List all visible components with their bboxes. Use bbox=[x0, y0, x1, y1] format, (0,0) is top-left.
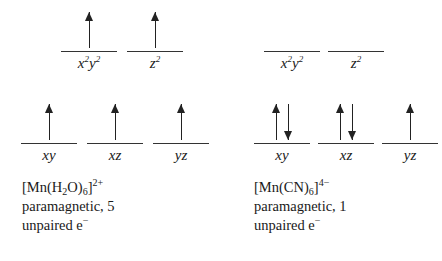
orbital-level-line bbox=[87, 143, 143, 144]
formula-charge: 4− bbox=[319, 177, 330, 188]
electron-slot-empty bbox=[288, 12, 297, 48]
orbital-t2g-xy: xy bbox=[18, 100, 80, 164]
electron-charge-sign: − bbox=[83, 215, 89, 226]
magnetism-text: paramagnetic, 1 bbox=[254, 197, 347, 216]
orbital-level-line bbox=[127, 51, 183, 52]
complex-diagram-mn-cn: x2y2 z2 xy xz bbox=[240, 0, 440, 261]
electron-arrow-up bbox=[177, 104, 186, 140]
electron-arrow-down bbox=[348, 104, 357, 140]
orbital-label-yz: yz bbox=[150, 147, 212, 164]
formula-charge: 2+ bbox=[93, 177, 104, 188]
magnetism-text: paramagnetic, 5 bbox=[22, 197, 115, 216]
orbital-label-xy: xy bbox=[252, 147, 312, 164]
chemical-formula: [Mn(H2O)6]2+ bbox=[22, 178, 115, 197]
orbital-level-line bbox=[264, 51, 320, 52]
complex-caption: [Mn(H2O)6]2+ paramagnetic, 5 unpaired e− bbox=[22, 178, 115, 235]
electron-charge-sign: − bbox=[315, 215, 321, 226]
formula-ligand-count: 6 bbox=[309, 186, 314, 197]
orbital-label-x2y2: x2y2 bbox=[262, 55, 322, 72]
unpaired-label: unpaired e bbox=[22, 217, 83, 233]
label-exponent: 2 bbox=[357, 54, 362, 64]
label-exponent: 2 bbox=[156, 54, 161, 64]
orbital-t2g-yz: yz bbox=[150, 100, 212, 164]
electron-slot-eg-x2y2 bbox=[58, 8, 120, 48]
eg-level-row: x2y2 z2 bbox=[58, 8, 258, 72]
electron-slot-t2g-xz bbox=[316, 100, 376, 140]
orbital-level-line bbox=[21, 143, 77, 144]
unpaired-electron-text: unpaired e− bbox=[22, 216, 115, 235]
electron-arrow-up bbox=[336, 104, 345, 140]
orbital-level-line bbox=[382, 143, 438, 144]
orbital-eg-z2: z2 bbox=[326, 8, 386, 72]
electron-arrow-up bbox=[272, 104, 281, 140]
orbital-label-yz: yz bbox=[380, 147, 440, 164]
orbital-level-line bbox=[254, 143, 310, 144]
orbital-level-line bbox=[153, 143, 209, 144]
orbital-label-xy: xy bbox=[18, 147, 80, 164]
orbital-eg-x2y2: x2y2 bbox=[262, 8, 322, 72]
label-text: x bbox=[281, 55, 288, 71]
electron-arrow-up bbox=[406, 104, 415, 140]
label-exponent-2: 2 bbox=[299, 54, 304, 64]
formula-ligand: H bbox=[52, 179, 62, 195]
electron-slot-t2g-xy bbox=[252, 100, 312, 140]
formula-ligand-count: 6 bbox=[83, 186, 88, 197]
chemical-formula: [Mn(CN)6]4− bbox=[254, 178, 347, 197]
orbital-t2g-yz: yz bbox=[380, 100, 440, 164]
orbital-eg-z2: z2 bbox=[124, 8, 186, 72]
orbital-level-line bbox=[318, 143, 374, 144]
formula-ligand-subscript: 2 bbox=[62, 186, 67, 197]
orbital-label-z2: z2 bbox=[124, 55, 186, 72]
orbital-eg-x2y2: x2y2 bbox=[58, 8, 120, 72]
electron-arrow-up bbox=[151, 12, 160, 48]
label-exponent-2: 2 bbox=[96, 54, 101, 64]
complex-diagram-mn-h2o: x2y2 z2 xy xz bbox=[10, 0, 210, 261]
orbital-t2g-xz: xz bbox=[84, 100, 146, 164]
formula-ligand-rest: O bbox=[67, 179, 77, 195]
orbital-label-z2: z2 bbox=[326, 55, 386, 72]
electron-arrow-up bbox=[111, 104, 120, 140]
electron-slot-t2g-xz bbox=[84, 100, 146, 140]
label-text-2: y bbox=[89, 55, 96, 71]
electron-slot-empty bbox=[352, 12, 361, 48]
eg-level-row: x2y2 z2 bbox=[262, 8, 442, 72]
unpaired-electron-text: unpaired e− bbox=[254, 216, 347, 235]
formula-metal: Mn bbox=[27, 179, 47, 195]
orbital-level-line bbox=[61, 51, 117, 52]
orbital-level-line bbox=[328, 51, 384, 52]
orbital-label-xz: xz bbox=[84, 147, 146, 164]
label-text: x bbox=[78, 55, 85, 71]
formula-ligand: CN bbox=[284, 179, 304, 195]
electron-slot-t2g-yz bbox=[150, 100, 212, 140]
electron-slot-t2g-yz bbox=[380, 100, 440, 140]
unpaired-label: unpaired e bbox=[254, 217, 315, 233]
electron-slot-eg-z2 bbox=[326, 8, 386, 48]
orbital-label-x2y2: x2y2 bbox=[58, 55, 120, 72]
electron-slot-eg-x2y2 bbox=[262, 8, 322, 48]
formula-metal: Mn bbox=[259, 179, 279, 195]
electron-slot-t2g-xy bbox=[18, 100, 80, 140]
electron-slot-eg-z2 bbox=[124, 8, 186, 48]
t2g-level-row: xy xz yz bbox=[252, 100, 442, 164]
label-text-2: y bbox=[292, 55, 299, 71]
orbital-t2g-xy: xy bbox=[252, 100, 312, 164]
electron-arrow-up bbox=[85, 12, 94, 48]
orbital-label-xz: xz bbox=[316, 147, 376, 164]
formula-ligand-close: ) bbox=[78, 179, 83, 195]
complex-caption: [Mn(CN)6]4− paramagnetic, 1 unpaired e− bbox=[254, 178, 347, 235]
electron-arrow-down bbox=[284, 104, 293, 140]
orbital-t2g-xz: xz bbox=[316, 100, 376, 164]
electron-arrow-up bbox=[45, 104, 54, 140]
t2g-level-row: xy xz yz bbox=[18, 100, 218, 164]
